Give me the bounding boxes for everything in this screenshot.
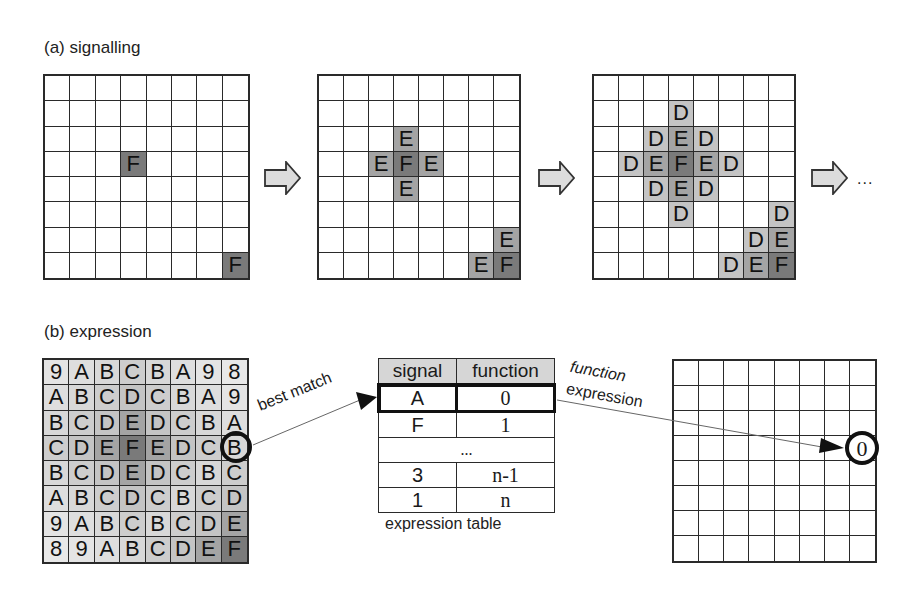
grid-cell	[147, 202, 172, 227]
grid-cell: A	[95, 537, 120, 562]
grid-cell: C	[171, 512, 196, 537]
cell-function: 0	[457, 385, 555, 412]
grid-cell	[147, 76, 172, 101]
grid-cell	[344, 177, 369, 202]
grid-cell: E	[196, 537, 221, 562]
grid-cell	[197, 177, 222, 202]
grid-cell	[699, 536, 724, 561]
grid-cell	[469, 127, 494, 152]
grid-cell	[70, 152, 95, 177]
grid-cell: D	[222, 486, 247, 511]
grid-cell: D	[769, 202, 794, 227]
arrow-right-icon	[538, 161, 576, 195]
grid-cell	[749, 361, 774, 386]
grid-cell	[45, 202, 70, 227]
grid-cell	[197, 76, 222, 101]
arrow-right-icon	[264, 161, 302, 195]
grid-cell	[825, 436, 850, 461]
grid-cell: F	[223, 253, 248, 278]
grid-cell: 9	[222, 385, 247, 410]
grid-cell	[344, 228, 369, 253]
grid-cell	[699, 511, 724, 536]
signal-concentration-grid: 9ABCBA98ABCDCBA9BCDEDCBACDEFEDCBBCDEDCBC…	[42, 358, 249, 564]
grid-cell: E	[694, 152, 719, 177]
cell-function: n	[457, 488, 555, 513]
grid-cell	[172, 76, 197, 101]
grid-cell: 9	[69, 537, 94, 562]
grid-cell: A	[171, 360, 196, 385]
grid-cell	[344, 152, 369, 177]
signalling-grid-step-1: FF	[43, 74, 250, 280]
grid-cell	[70, 202, 95, 227]
grid-cell: 9	[44, 360, 69, 385]
grid-cell	[70, 228, 95, 253]
grid-cell	[800, 461, 825, 486]
grid-cell: F	[769, 253, 794, 278]
grid-cell	[494, 152, 519, 177]
grid-cell	[344, 127, 369, 152]
grid-cell: F	[669, 152, 694, 177]
grid-cell	[319, 202, 344, 227]
grid-cell	[744, 152, 769, 177]
grid-cell	[669, 253, 694, 278]
grid-cell	[644, 253, 669, 278]
grid-cell: D	[196, 512, 221, 537]
grid-cell	[674, 386, 699, 411]
grid-cell	[669, 228, 694, 253]
grid-cell: B	[146, 360, 171, 385]
grid-cell	[800, 386, 825, 411]
grid-cell	[369, 127, 394, 152]
grid-cell: C	[196, 436, 221, 461]
grid-cell	[694, 202, 719, 227]
grid-cell	[394, 76, 419, 101]
grid-cell	[769, 76, 794, 101]
grid-cell	[369, 177, 394, 202]
grid-cell	[674, 536, 699, 561]
grid-cell	[121, 202, 146, 227]
grid-cell	[699, 411, 724, 436]
grid-cell	[775, 536, 800, 561]
grid-cell	[719, 202, 744, 227]
grid-cell	[197, 101, 222, 126]
grid-cell	[197, 127, 222, 152]
grid-cell	[70, 76, 95, 101]
grid-cell	[121, 228, 146, 253]
grid-cell: 9	[44, 512, 69, 537]
grid-cell: E	[146, 436, 171, 461]
grid-cell	[444, 101, 469, 126]
grid-cell	[419, 202, 444, 227]
grid-cell	[674, 461, 699, 486]
grid-cell	[319, 228, 344, 253]
grid-cell	[70, 127, 95, 152]
grid-cell	[775, 411, 800, 436]
signalling-grid-step-2: EEFEEEEF	[317, 74, 521, 280]
grid-cell	[147, 253, 172, 278]
grid-cell	[444, 152, 469, 177]
cell-signal: 3	[379, 463, 457, 488]
grid-cell	[594, 202, 619, 227]
grid-cell	[724, 411, 749, 436]
grid-cell	[749, 461, 774, 486]
grid-cell	[619, 202, 644, 227]
grid-cell: E	[222, 512, 247, 537]
grid-cell	[644, 76, 669, 101]
grid-cell	[674, 436, 699, 461]
grid-cell	[121, 253, 146, 278]
grid-cell	[394, 101, 419, 126]
grid-cell	[45, 177, 70, 202]
grid-cell: A	[196, 385, 221, 410]
grid-cell	[369, 228, 394, 253]
grid-cell	[147, 127, 172, 152]
grid-cell: E	[419, 152, 444, 177]
grid-cell: E	[120, 461, 145, 486]
grid-cell	[674, 411, 699, 436]
grid-cell	[674, 361, 699, 386]
grid-cell: D	[619, 152, 644, 177]
grid-cell	[619, 127, 644, 152]
grid-cell	[469, 76, 494, 101]
grid-cell	[369, 253, 394, 278]
grid-cell	[70, 101, 95, 126]
grid-cell	[744, 76, 769, 101]
grid-cell	[444, 228, 469, 253]
grid-cell: E	[494, 228, 519, 253]
